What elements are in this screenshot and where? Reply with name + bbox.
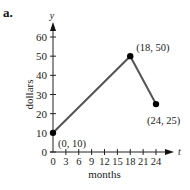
x-tick-label: 9 [89, 156, 94, 167]
y-tick-label: 50 [36, 50, 48, 62]
x-tick-label: 18 [125, 156, 136, 167]
x-tick-label: 21 [138, 156, 149, 167]
data-line [53, 56, 156, 133]
data-point-label: (18, 50) [136, 42, 170, 54]
x-tick-label: 3 [63, 156, 68, 167]
data-point-marker [50, 130, 56, 136]
y-tick-label: 0 [42, 146, 48, 158]
y-axis-arrow-icon [50, 22, 56, 31]
y-tick-label: 30 [36, 89, 48, 101]
x-axis-label: months [88, 168, 120, 180]
x-tick-label: 6 [76, 156, 81, 167]
y-axis-variable: y [49, 10, 55, 21]
data-point-label: (24, 25) [147, 115, 181, 127]
x-axis-arrow-icon [165, 149, 174, 155]
x-tick-label: 0 [50, 156, 55, 167]
y-tick-label: 40 [36, 69, 48, 81]
y-tick-label: 20 [36, 108, 48, 120]
data-point-label: (0, 10) [58, 138, 86, 150]
x-tick-label: 12 [99, 156, 110, 167]
x-tick-label: 24 [151, 156, 162, 167]
data-point-marker [153, 101, 159, 107]
y-axis-label: dollars [23, 80, 35, 110]
x-axis-variable: t [178, 146, 181, 157]
data-point-marker [127, 53, 133, 59]
y-tick-label: 60 [36, 31, 48, 43]
x-tick-label: 15 [112, 156, 123, 167]
line-chart: yt010203040506003691215182124monthsdolla… [0, 0, 190, 190]
y-tick-label: 10 [36, 127, 48, 139]
